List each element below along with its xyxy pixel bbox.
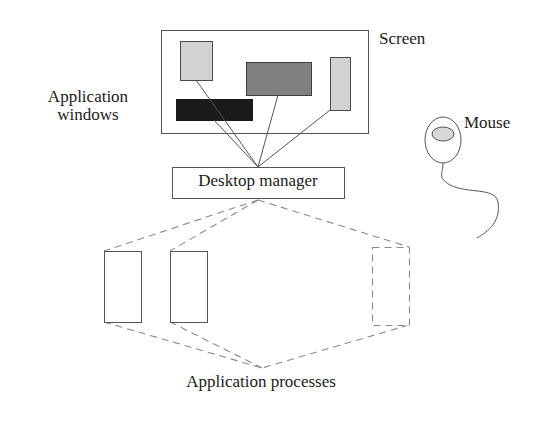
process-box-1: [105, 252, 142, 323]
process-box-3: [373, 248, 410, 326]
connector-window-dark-wide: [214, 120, 258, 167]
window-light-tall: [331, 58, 351, 111]
dashed-top-to-process-1: [104, 200, 258, 251]
window-medium-wide: [247, 63, 312, 96]
connector-window-light-tall: [258, 110, 330, 167]
dashed-top-to-process-2: [170, 200, 258, 251]
process-box-2: [171, 252, 208, 323]
mouse-button-icon: [432, 127, 454, 141]
label-mouse: Mouse: [464, 114, 510, 132]
mouse-graphic: [425, 117, 498, 238]
dashed-bottom-from-process-3: [262, 325, 409, 368]
window-dark-wide: [177, 100, 253, 121]
diagram-vector-layer: [0, 0, 536, 423]
window-light-square: [181, 42, 213, 81]
label-screen: Screen: [379, 30, 425, 48]
diagram-canvas: Screen Application windows Mouse Desktop…: [0, 0, 536, 423]
label-application-windows: Application windows: [18, 88, 158, 125]
connector-window-medium-wide: [258, 95, 278, 167]
dashed-top-to-process-3: [258, 200, 409, 247]
label-desktop-manager: Desktop manager: [172, 172, 344, 190]
label-application-processes: Application processes: [146, 373, 376, 391]
dashed-bottom-from-process-2: [170, 322, 262, 368]
mouse-cord-icon: [442, 163, 499, 238]
